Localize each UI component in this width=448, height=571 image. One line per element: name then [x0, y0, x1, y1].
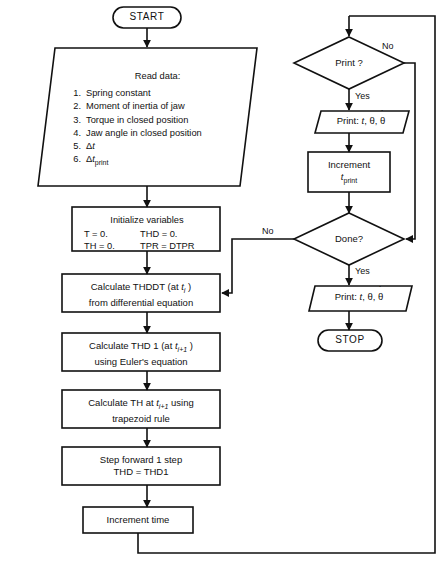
read-data-item-2: 2. Moment of inertia of jaw [70, 100, 245, 113]
read-data-list: 1. Spring constant 2. Moment of inertia … [70, 87, 245, 169]
initialize-tpr-value: TPR = DTPR [140, 240, 195, 253]
initialize-row-1: T = 0. THD = 0. [84, 228, 210, 241]
increment-tprint-box-shape [308, 152, 390, 192]
step-forward-box-shape [62, 447, 220, 485]
read-data-item-2-number: 2. [70, 100, 81, 113]
print-output-bottom-shape [309, 286, 412, 311]
read-data-item-6: 6. Δtprint [70, 153, 245, 169]
initialize-th-value: TH = 0. [84, 240, 140, 253]
initialize-title: Initialize variables [84, 214, 210, 227]
print-output-top-shape [315, 111, 409, 133]
flowchart-canvas: START Read data: 1. Spring constant 2. M… [0, 0, 448, 571]
read-data-content: Read data: 1. Spring constant 2. Moment … [70, 70, 245, 169]
read-data-item-4-number: 4. [70, 127, 81, 140]
read-data-item-3-text: Torque in closed position [86, 114, 188, 127]
initialize-row-2: TH = 0. TPR = DTPR [84, 240, 210, 253]
stop-terminal-label: STOP [318, 334, 382, 345]
read-data-item-4-text: Jaw angle in closed position [86, 127, 202, 140]
increment-time-box-shape [83, 507, 193, 533]
read-data-item-2-text: Moment of inertia of jaw [86, 100, 185, 113]
print-yes-label: Yes [355, 91, 370, 101]
read-data-item-3: 3. Torque in closed position [70, 114, 245, 127]
initialize-t-value: T = 0. [84, 228, 140, 241]
initialize-content: Initialize variables T = 0. THD = 0. TH … [84, 214, 210, 253]
read-data-item-4: 4. Jaw angle in closed position [70, 127, 245, 140]
read-data-item-6-number: 6. [70, 153, 81, 169]
done-decision-shape [294, 213, 404, 265]
initialize-thd-value: THD = 0. [140, 228, 177, 241]
calculate-th-box-shape [62, 390, 220, 428]
calculate-thd1-box-shape [62, 333, 220, 371]
done-yes-label: Yes [355, 266, 370, 276]
edge-print-no-to-done [404, 63, 415, 239]
edge-done-no-to-thddt [222, 239, 294, 293]
read-data-title: Read data: [70, 70, 245, 83]
read-data-item-5-number: 5. [70, 140, 81, 153]
print-no-label: No [382, 41, 394, 51]
done-no-label: No [262, 226, 274, 236]
read-data-item-1-text: Spring constant [86, 87, 151, 100]
read-data-item-1-number: 1. [70, 87, 81, 100]
start-terminal-label: START [113, 11, 181, 22]
read-data-item-5-text: Δt [86, 140, 95, 153]
read-data-item-5: 5. Δt [70, 140, 245, 153]
calculate-thddt-box-shape [62, 274, 220, 312]
read-data-item-1: 1. Spring constant [70, 87, 245, 100]
read-data-item-3-number: 3. [70, 114, 81, 127]
read-data-item-6-text: Δtprint [86, 153, 108, 169]
